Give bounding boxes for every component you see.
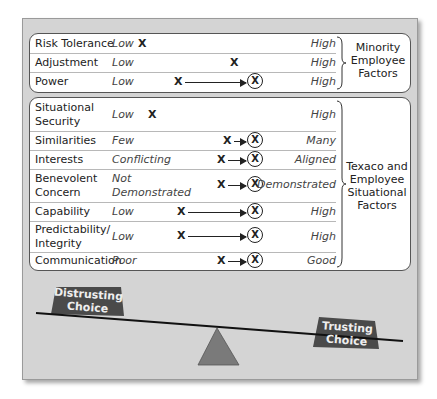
trusting-choice-label: Trusting Choice: [315, 319, 379, 349]
distrusting-choice-label: Distrusting Choice: [52, 286, 124, 317]
diagram-frame: Risk Tolerance Low X High Adjustment Low…: [22, 18, 418, 380]
fulcrum-triangle: [198, 328, 239, 365]
